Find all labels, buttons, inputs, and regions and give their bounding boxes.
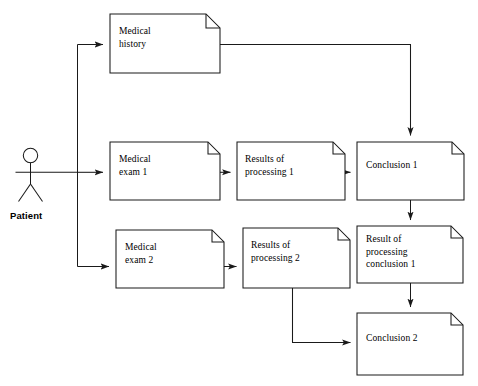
diagram-vector-layer: [0, 0, 478, 386]
node-label-results-of-processing-1: Results of processing 1: [245, 153, 343, 178]
stick-figure-actor-icon: [16, 148, 78, 201]
actor-label-patient: Patient: [10, 210, 42, 221]
node-label-medical-exam-1: Medical exam 1: [119, 153, 215, 178]
node-label-results-of-processing-2: Results of processing 2: [251, 239, 349, 264]
edge-medical-history-to-conclusion-1: [220, 45, 411, 136]
node-label-conclusion-2: Conclusion 2: [366, 332, 462, 345]
node-label-result-of-processing-conclusion-1: Result of processing conclusion 1: [366, 233, 462, 271]
node-label-conclusion-1: Conclusion 1: [366, 159, 462, 172]
node-label-medical-exam-2: Medical exam 2: [125, 241, 221, 266]
edge-results-2-to-conclusion-2: [293, 288, 351, 343]
diagram-canvas: Medical history Medical exam 1 Results o…: [0, 0, 478, 386]
node-label-medical-history: Medical history: [119, 25, 215, 50]
